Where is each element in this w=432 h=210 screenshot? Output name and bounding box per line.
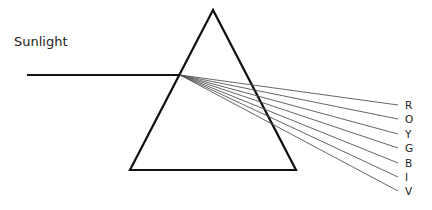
prism-diagram: Sunlight ROYGBIV <box>0 0 432 210</box>
spectrum-ray-v <box>180 75 398 191</box>
spectrum-label-b: B <box>405 157 412 169</box>
spectrum-ray-b <box>180 75 398 163</box>
spectrum-ray-o <box>180 75 398 119</box>
spectrum-ray-y <box>180 75 398 134</box>
spectrum-label-r: R <box>405 99 412 111</box>
spectrum-label-v: V <box>405 185 413 197</box>
spectrum-ray-g <box>180 75 398 148</box>
sunlight-label: Sunlight <box>14 34 68 49</box>
spectrum-label-o: O <box>405 113 413 125</box>
spectrum-labels: ROYGBIV <box>404 99 413 197</box>
spectrum-label-i: I <box>405 171 408 183</box>
spectrum-label-g: G <box>405 142 413 154</box>
spectrum-label-y: Y <box>404 128 412 140</box>
spectrum-rays <box>180 75 398 191</box>
